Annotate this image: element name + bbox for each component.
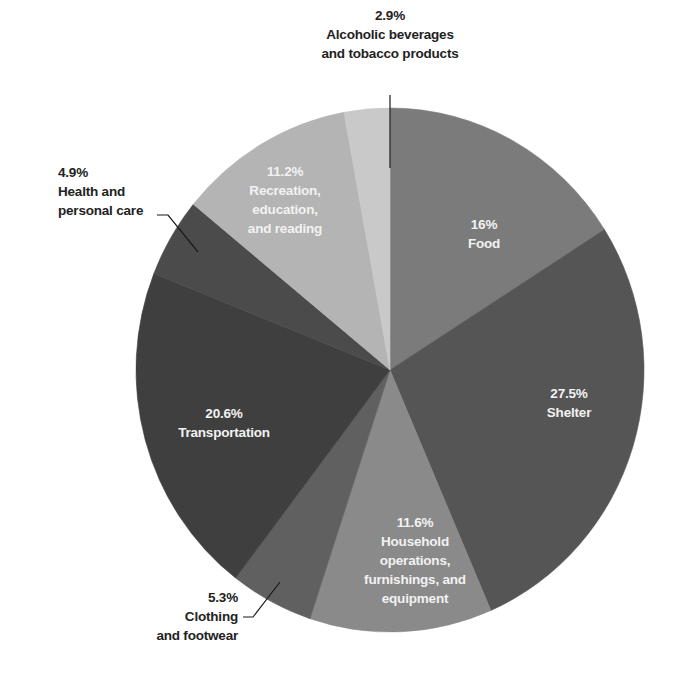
label-clothing-pct: 5.3% bbox=[130, 588, 238, 607]
label-clothing-line1: Clothing bbox=[130, 607, 238, 626]
label-alcohol-line1: Alcoholic beverages bbox=[300, 25, 480, 44]
label-alcohol-pct: 2.9% bbox=[300, 6, 480, 25]
label-recreation-line1: Recreation, bbox=[230, 181, 340, 200]
label-alcohol-line2: and tobacco products bbox=[300, 44, 480, 63]
label-transportation-line1: Transportation bbox=[154, 423, 294, 442]
label-recreation-line2: education, bbox=[230, 200, 340, 219]
label-household-pct: 11.6% bbox=[345, 513, 485, 532]
label-household-line3: furnishings, and bbox=[345, 570, 485, 589]
pie-chart bbox=[0, 0, 677, 683]
label-household: 11.6% Household operations, furnishings,… bbox=[345, 513, 485, 608]
label-health: 4.9% Health and personal care bbox=[58, 163, 168, 220]
label-household-line4: equipment bbox=[345, 589, 485, 608]
label-alcohol: 2.9% Alcoholic beverages and tobacco pro… bbox=[300, 6, 480, 63]
label-household-line2: operations, bbox=[345, 551, 485, 570]
label-health-line1: Health and bbox=[58, 182, 168, 201]
label-recreation-pct: 11.2% bbox=[230, 162, 340, 181]
label-recreation-line3: and reading bbox=[230, 219, 340, 238]
label-health-pct: 4.9% bbox=[58, 163, 168, 182]
label-food-line1: Food bbox=[424, 234, 544, 253]
label-shelter-line1: Shelter bbox=[509, 403, 629, 422]
label-transportation: 20.6% Transportation bbox=[154, 404, 294, 442]
label-household-line1: Household bbox=[345, 532, 485, 551]
label-food-pct: 16% bbox=[424, 215, 544, 234]
label-recreation: 11.2% Recreation, education, and reading bbox=[230, 162, 340, 238]
label-clothing: 5.3% Clothing and footwear bbox=[130, 588, 238, 645]
label-health-line2: personal care bbox=[58, 201, 168, 220]
label-shelter-pct: 27.5% bbox=[509, 384, 629, 403]
label-food: 16% Food bbox=[424, 215, 544, 253]
label-clothing-line2: and footwear bbox=[130, 626, 238, 645]
label-shelter: 27.5% Shelter bbox=[509, 384, 629, 422]
label-transportation-pct: 20.6% bbox=[154, 404, 294, 423]
